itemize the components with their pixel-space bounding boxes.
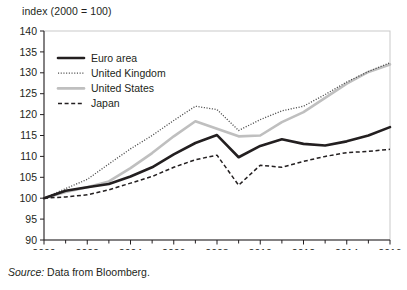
x-tick-label: 2004 bbox=[119, 247, 143, 250]
x-tick-label: 2008 bbox=[205, 247, 229, 250]
x-tick-label: 2012 bbox=[292, 247, 316, 250]
y-axis-unit-label: index (2000 = 100) bbox=[22, 5, 112, 17]
series-line-euro-area bbox=[44, 127, 390, 198]
x-tick-label: 2016 bbox=[378, 247, 402, 250]
x-tick-label: 2006 bbox=[162, 247, 186, 250]
figure: index (2000 = 100) 909510010511011512012… bbox=[0, 0, 407, 290]
y-tick-label: 125 bbox=[19, 87, 37, 99]
x-tick-label: 2010 bbox=[249, 247, 273, 250]
y-tick-label: 90 bbox=[25, 234, 37, 246]
legend-label-euro-area: Euro area bbox=[91, 52, 137, 64]
y-tick-label: 120 bbox=[19, 108, 37, 120]
legend-label-united-kingdom: United Kingdom bbox=[91, 67, 166, 79]
y-tick-label: 100 bbox=[19, 192, 37, 204]
plot-area: 9095100105110115120125130135140200020022… bbox=[0, 22, 407, 250]
legend-label-united-states: United States bbox=[91, 82, 154, 94]
y-tick-label: 105 bbox=[19, 171, 37, 183]
y-tick-label: 95 bbox=[25, 213, 37, 225]
x-tick-label: 2002 bbox=[76, 247, 100, 250]
source-prefix: Source: bbox=[8, 266, 44, 278]
y-tick-label: 110 bbox=[20, 150, 37, 162]
y-tick-label: 115 bbox=[20, 129, 37, 141]
x-tick-label: 2014 bbox=[335, 247, 359, 250]
source-note: Source: Data from Bloomberg. bbox=[8, 266, 150, 278]
x-tick-label: 2000 bbox=[32, 247, 56, 250]
y-tick-label: 130 bbox=[19, 66, 37, 78]
y-tick-label: 135 bbox=[19, 46, 37, 58]
line-chart: 9095100105110115120125130135140200020022… bbox=[0, 22, 407, 250]
y-tick-label: 140 bbox=[19, 25, 37, 37]
legend-label-japan: Japan bbox=[91, 97, 120, 109]
source-text: Data from Bloomberg. bbox=[44, 266, 150, 278]
